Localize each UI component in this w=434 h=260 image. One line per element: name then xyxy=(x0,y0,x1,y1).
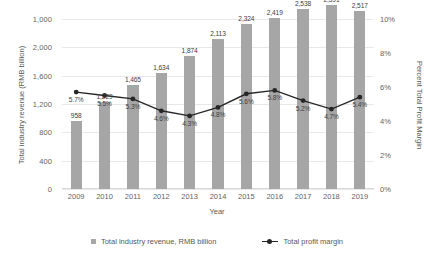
bar-value-label: 2,113 xyxy=(210,30,226,37)
bar-swatch-icon xyxy=(91,239,96,244)
profit-margin-value-label: 4.8% xyxy=(211,111,226,118)
y-axis-right-title: Percent Total Profit Margin xyxy=(415,37,424,173)
bar-value-label: 1,874 xyxy=(182,47,198,54)
profit-margin-value-label: 5.6% xyxy=(239,98,254,105)
bar-value-label: 2,538 xyxy=(295,0,311,7)
plot-area: 9581,2291,4651,6341,8742,1132,3242,4192,… xyxy=(62,19,374,189)
y-axis-right-tick-label: 8% xyxy=(380,49,391,58)
x-axis-tick-label: 2012 xyxy=(153,192,170,201)
y-axis-right-tick-label: 2% xyxy=(380,151,391,160)
y-axis-right-title-wrap: Percent Total Profit Margin xyxy=(412,19,426,190)
gridline xyxy=(62,189,374,190)
x-axis-tick-label: 2013 xyxy=(181,192,198,201)
profit-margin-value-label: 4.7% xyxy=(324,113,339,120)
bar-value-label: 2,324 xyxy=(238,15,254,22)
profit-margin-value-label: 5.4% xyxy=(352,101,367,108)
profit-margin-value-label: 4.6% xyxy=(154,115,169,122)
y-axis-left-tick-label: 800 xyxy=(39,128,52,137)
x-axis-tick-label: 2016 xyxy=(266,192,283,201)
profit-margin-value-label: 5.5% xyxy=(97,100,112,107)
bar-value-label: 958 xyxy=(71,112,82,119)
y-axis-left-tick-label: 1,200 xyxy=(33,100,52,109)
x-axis-tick-label: 2019 xyxy=(351,192,368,201)
x-axis-tick-label: 2010 xyxy=(96,192,113,201)
chart-container: 04008001,2001,6002,0001,000 Total indust… xyxy=(0,0,434,260)
profit-margin-value-label: 5.2% xyxy=(296,105,311,112)
x-axis-tick-label: 2011 xyxy=(125,192,141,201)
y-axis-left-title: Total industry revenue (RMB billion) xyxy=(17,30,26,180)
x-axis-tick-label: 2014 xyxy=(210,192,227,201)
y-axis-left-tick-label: 1,000 xyxy=(33,15,52,24)
data-labels-layer: 9581,2291,4651,6341,8742,1132,3242,4192,… xyxy=(62,19,374,189)
x-axis-tick-label: 2009 xyxy=(68,192,85,201)
x-axis-tick-label: 2017 xyxy=(295,192,312,201)
profit-margin-value-label: 5.3% xyxy=(126,103,141,110)
y-axis-left-tick-label: 2,000 xyxy=(33,43,52,52)
y-axis-right: 0%2%4%6%8%10% xyxy=(376,19,410,190)
y-axis-left-tick-label: 400 xyxy=(39,156,52,165)
legend-label-revenue: Total industry revenue, RMB billion xyxy=(101,237,216,246)
y-axis-right-tick-label: 10% xyxy=(380,15,395,24)
legend-item-profit-margin[interactable]: Total profit margin xyxy=(262,237,343,246)
x-axis: 2009201020112012201320142015201620172018… xyxy=(62,192,374,206)
legend-label-profit-margin: Total profit margin xyxy=(283,237,343,246)
line-marker-swatch-icon xyxy=(262,239,278,244)
legend-item-revenue[interactable]: Total industry revenue, RMB billion xyxy=(91,237,216,246)
bar-value-label: 1,465 xyxy=(125,76,141,83)
y-axis-left-tick-label: 1,600 xyxy=(33,71,52,80)
chart-legend: Total industry revenue, RMB billion Tota… xyxy=(0,237,434,246)
y-axis-right-tick-label: 6% xyxy=(380,83,391,92)
y-axis-left-tick-label: 0 xyxy=(48,185,52,194)
bar-value-label: 1,634 xyxy=(153,64,169,71)
bar-value-label: 2,419 xyxy=(267,9,283,16)
x-axis-tick-label: 2018 xyxy=(323,192,340,201)
y-axis-right-tick-label: 0% xyxy=(380,185,391,194)
y-axis-right-tick-label: 4% xyxy=(380,117,391,126)
bar-value-label: 2,591 xyxy=(323,0,339,3)
x-axis-title: Year xyxy=(0,207,434,216)
x-axis-tick-label: 2015 xyxy=(238,192,255,201)
profit-margin-value-label: 4.3% xyxy=(182,120,197,127)
profit-margin-value-label: 5.7% xyxy=(69,96,84,103)
bar-value-label: 2,517 xyxy=(352,2,368,9)
y-axis-left-title-wrap: Total industry revenue (RMB billion) xyxy=(2,19,16,190)
profit-margin-value-label: 5.8% xyxy=(267,94,282,101)
